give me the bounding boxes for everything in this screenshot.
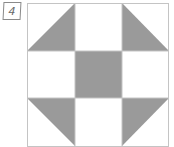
triangle-bottom-left — [27, 98, 75, 146]
quilt-block-diagram — [0, 0, 174, 147]
triangle-top-right — [122, 3, 169, 51]
center-square — [75, 51, 122, 98]
shaded-shapes — [27, 3, 169, 146]
triangle-bottom-right — [122, 98, 169, 146]
triangle-top-left — [27, 3, 75, 51]
